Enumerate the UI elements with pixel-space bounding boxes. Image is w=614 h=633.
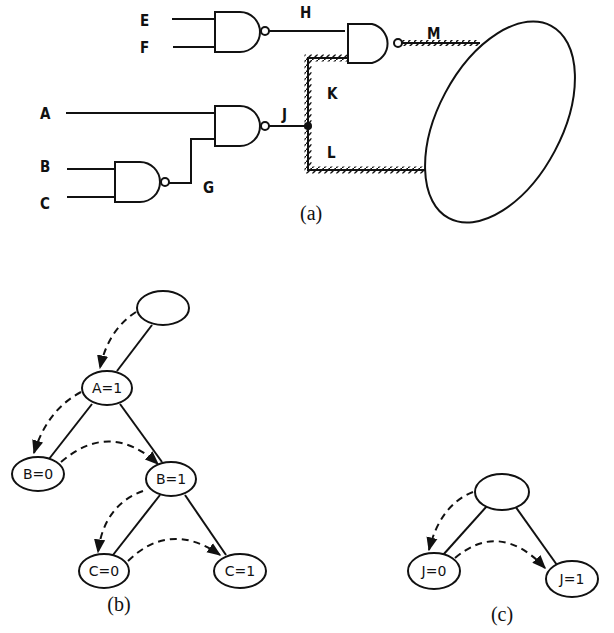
- circuit-diagram: E F H M A J K L B C G (a): [40, 0, 606, 247]
- nand-gate-hk: [348, 24, 388, 63]
- caption-a: (a): [300, 202, 322, 225]
- label-e: E: [140, 12, 149, 30]
- label-f: F: [140, 39, 149, 57]
- label-l: L: [327, 144, 336, 162]
- label-k: K: [327, 85, 338, 103]
- inversion-bubble: [261, 122, 269, 130]
- node-label-b1: B=1: [156, 471, 186, 487]
- label-g: G: [203, 179, 214, 197]
- circuit-and-decision-trees: E F H M A J K L B C G (a) A=1 B=0 B=1 C=…: [0, 0, 614, 633]
- label-a: A: [40, 105, 51, 123]
- nand-gate-ef: [215, 12, 260, 52]
- tree-node-root: [137, 291, 189, 325]
- node-label-j0: J=0: [421, 563, 447, 579]
- nand-gate-bc: [115, 162, 160, 202]
- reconvergent-region: [394, 0, 606, 247]
- label-h: H: [300, 4, 311, 22]
- inversion-bubble: [161, 178, 169, 186]
- label-j: J: [281, 106, 287, 124]
- fanout-junction: [304, 122, 312, 130]
- node-label-c1: C=1: [225, 563, 255, 579]
- inversion-bubble: [394, 39, 402, 47]
- nand-gate-ag: [215, 106, 260, 146]
- label-m: M: [427, 25, 440, 43]
- inversion-bubble: [261, 27, 269, 35]
- label-c: C: [40, 195, 50, 213]
- node-label-a1: A=1: [92, 380, 122, 396]
- tree-node-root-c: [475, 474, 529, 510]
- node-label-b0: B=0: [23, 466, 53, 482]
- caption-c: (c): [491, 603, 513, 626]
- caption-b: (b): [107, 593, 130, 616]
- label-b: B: [40, 158, 50, 176]
- decision-tree-c: J=0 J=1 (c): [408, 474, 598, 626]
- decision-tree-b: A=1 B=0 B=1 C=0 C=1 (b): [12, 291, 266, 616]
- node-label-j1: J=1: [559, 571, 585, 587]
- node-label-c0: C=0: [89, 563, 119, 579]
